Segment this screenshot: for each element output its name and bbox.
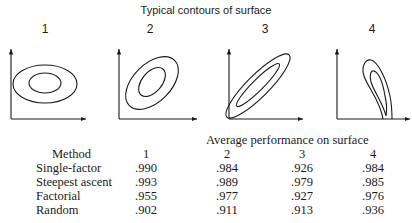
value-cell: .955 (126, 189, 166, 204)
value-cell: .990 (126, 161, 166, 176)
value-cell: .984 (207, 161, 247, 176)
col-header-2: 2 (207, 147, 247, 162)
method-name: Single-factor (36, 161, 101, 176)
contour-panel-1 (11, 49, 86, 119)
method-name: Random (36, 203, 78, 218)
contour-panel-4 (337, 49, 410, 119)
value-cell: .936 (353, 203, 393, 218)
value-cell: .902 (126, 203, 166, 218)
col-header-1: 1 (126, 147, 166, 162)
method-name: Steepest ascent (36, 175, 112, 190)
value-cell: .984 (353, 161, 393, 176)
value-cell: .976 (353, 189, 393, 204)
value-cell: .911 (207, 203, 247, 218)
value-cell: .993 (126, 175, 166, 190)
value-cell: .927 (282, 189, 322, 204)
value-cell: .926 (282, 161, 322, 176)
contour-plots (0, 0, 412, 130)
col-header-4: 4 (353, 147, 393, 162)
method-header: Method (52, 147, 91, 162)
contour-panel-2 (116, 47, 197, 119)
value-cell: .979 (282, 175, 322, 190)
table-title: Average performance on surface (206, 133, 369, 148)
value-cell: .977 (207, 189, 247, 204)
value-cell: .985 (353, 175, 393, 190)
col-header-3: 3 (282, 147, 322, 162)
value-cell: .989 (207, 175, 247, 190)
contour-panel-3 (219, 47, 303, 125)
value-cell: .913 (282, 203, 322, 218)
method-name: Factorial (36, 189, 80, 204)
